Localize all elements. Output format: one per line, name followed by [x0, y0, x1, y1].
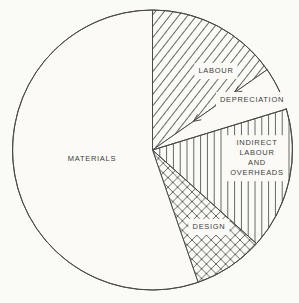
pie-chart-figure: LABOUR DEPRECIATION INDIRECT LABOUR AND …: [0, 0, 299, 303]
segment-label-indirect-labour-and-overheads: INDIRECT LABOUR AND OVERHEADS: [226, 135, 287, 181]
segment-label-design: DESIGN: [189, 219, 230, 235]
segment-label-materials: MATERIALS: [64, 151, 120, 167]
segment-label-depreciation: DEPRECIATION: [216, 92, 288, 108]
segment-label-labour: LABOUR: [194, 63, 237, 79]
